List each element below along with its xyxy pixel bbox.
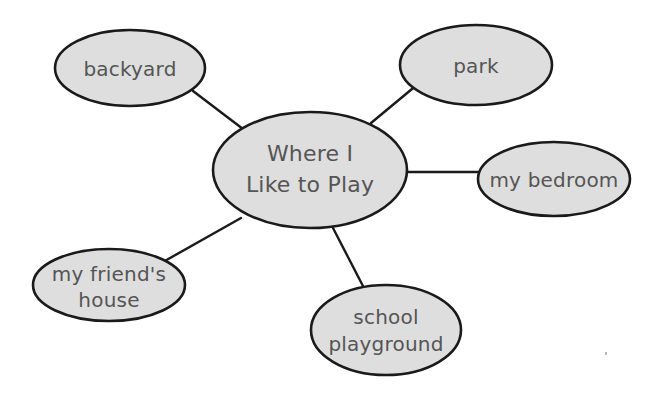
node-my-bedroom[interactable]: my bedroom	[478, 142, 630, 216]
node-school-playground-label-line1: school	[353, 305, 418, 329]
node-school-playground[interactable]: school playground	[311, 285, 461, 375]
node-my-friends-house[interactable]: my friend's house	[33, 249, 185, 321]
node-backyard-label: backyard	[83, 57, 176, 81]
node-center-topic[interactable]: Where I Like to Play	[213, 112, 407, 228]
node-my-friends-house-label-line1: my friend's	[52, 262, 166, 286]
node-center-ellipse[interactable]	[213, 112, 407, 228]
node-center-label-line1: Where I	[267, 141, 353, 166]
scan-speck	[605, 352, 607, 355]
node-school-playground-ellipse[interactable]	[311, 285, 461, 375]
node-school-playground-label-line2: playground	[328, 332, 443, 356]
node-my-friends-house-label-line2: house	[78, 288, 139, 312]
node-park-label: park	[453, 54, 499, 78]
node-center-label-line2: Like to Play	[246, 172, 374, 197]
mind-map-diagram: backyard park my bedroom school playgrou…	[0, 0, 662, 403]
node-park[interactable]: park	[400, 25, 552, 105]
node-my-bedroom-label: my bedroom	[489, 168, 618, 192]
node-backyard[interactable]: backyard	[55, 30, 205, 106]
